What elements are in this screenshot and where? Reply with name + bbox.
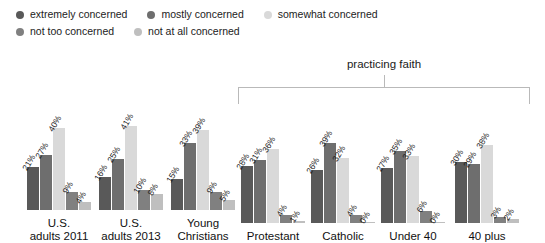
bar[interactable]: [468, 164, 480, 223]
bar-slot: 3%: [494, 131, 506, 223]
legend-item: mostly concerned: [147, 9, 243, 20]
bar[interactable]: [241, 166, 253, 223]
bracket-span: [238, 87, 530, 104]
bar-slot: 1%: [293, 131, 305, 223]
bar-slot: 39%: [324, 131, 336, 223]
legend-item-label: not too concerned: [30, 26, 114, 37]
category-label: Under 40: [389, 230, 436, 243]
legend-item-label: not at all concerned: [148, 26, 240, 37]
bar[interactable]: [40, 155, 52, 210]
bar-slot: 0%: [433, 131, 445, 223]
legend-row-2: not too concernednot at all concerned: [16, 23, 536, 40]
bar-slot: 4%: [79, 118, 91, 210]
bar-slot: 28%: [241, 131, 253, 223]
bar[interactable]: [254, 160, 266, 223]
bar-slot: 40%: [53, 118, 65, 210]
legend-row-1: extremely concernedmostly concernedsomew…: [16, 6, 536, 23]
category-label: Young Christians: [177, 217, 228, 243]
bar-group-bars: 21%27%40%9%4%: [27, 118, 91, 210]
bar-slot: 15%: [171, 118, 183, 210]
bar-slot: 21%: [27, 118, 39, 210]
legend-item-label: somewhat concerned: [278, 9, 378, 20]
bar-slot: 2%: [507, 131, 519, 223]
bar-slot: 35%: [394, 131, 406, 223]
legend-dot-icon: [147, 11, 155, 19]
category-label: U.S. adults 2013: [101, 217, 160, 243]
bar-group: 26%39%32%4%0%Catholic: [310, 104, 376, 243]
category-label: U.S. adults 2011: [30, 217, 89, 243]
bar[interactable]: [184, 143, 196, 210]
bar-slot: 30%: [455, 131, 467, 223]
legend-item: somewhat concerned: [264, 9, 378, 20]
bracket-label: practicing faith: [238, 58, 530, 70]
legend-dot-icon: [134, 28, 142, 36]
legend-dot-icon: [16, 11, 24, 19]
bar-slot: 16%: [99, 118, 111, 210]
bar[interactable]: [311, 170, 323, 223]
bar-group-bars: 30%29%38%3%2%: [455, 131, 519, 223]
bar-slot: 4%: [350, 131, 362, 223]
bar-slot: 4%: [280, 131, 292, 223]
category-label: Protestant: [247, 230, 299, 243]
legend-dot-icon: [264, 11, 272, 19]
bar[interactable]: [53, 128, 65, 210]
bar-chart-plot: 21%27%40%9%4%U.S. adults 201116%25%41%10…: [0, 104, 545, 243]
bar-group-bars: 16%25%41%10%8%: [99, 118, 163, 210]
legend-item-label: mostly concerned: [161, 9, 243, 20]
bar-slot: 10%: [138, 118, 150, 210]
category-label: Catholic: [322, 230, 364, 243]
bar-group-bars: 27%35%33%6%0%: [381, 131, 445, 223]
bar[interactable]: [112, 159, 124, 210]
bar[interactable]: [407, 156, 419, 223]
legend-item: extremely concerned: [16, 9, 127, 20]
category-label: 40 plus: [468, 230, 505, 243]
bar-group: 15%33%39%9%5%Young Christians: [170, 104, 236, 243]
bar-slot: 6%: [420, 131, 432, 223]
bar-group-bars: 28%31%36%4%1%: [241, 131, 305, 223]
legend-item-label: extremely concerned: [30, 9, 127, 20]
legend-item: not too concerned: [16, 26, 114, 37]
bar-group: 21%27%40%9%4%U.S. adults 2011: [26, 104, 92, 243]
legend-dot-icon: [16, 28, 24, 36]
bar-slot: 39%: [197, 118, 209, 210]
bar[interactable]: [394, 151, 406, 223]
bar[interactable]: [455, 162, 467, 223]
bar-slot: 5%: [223, 118, 235, 210]
chart-legend: extremely concernedmostly concernedsomew…: [16, 6, 536, 40]
bar-group: 30%29%38%3%2%40 plus: [452, 104, 522, 243]
bar-slot: 8%: [151, 118, 163, 210]
bar-group: 27%35%33%6%0%Under 40: [380, 104, 446, 243]
bar-slot: 27%: [40, 118, 52, 210]
practicing-faith-bracket: practicing faith: [238, 58, 530, 104]
bar[interactable]: [125, 126, 137, 210]
bar[interactable]: [27, 167, 39, 210]
bar-slot: 25%: [112, 118, 124, 210]
bar-group-bars: 15%33%39%9%5%: [171, 118, 235, 210]
bar-group: 28%31%36%4%1%Protestant: [240, 104, 306, 243]
bar-slot: 0%: [363, 131, 375, 223]
bar-group: 16%25%41%10%8%U.S. adults 2013: [98, 104, 164, 243]
bar-group-bars: 26%39%32%4%0%: [311, 131, 375, 223]
bar[interactable]: [197, 130, 209, 210]
bar[interactable]: [381, 168, 393, 223]
bar-slot: 41%: [125, 118, 137, 210]
legend-item: not at all concerned: [134, 26, 240, 37]
